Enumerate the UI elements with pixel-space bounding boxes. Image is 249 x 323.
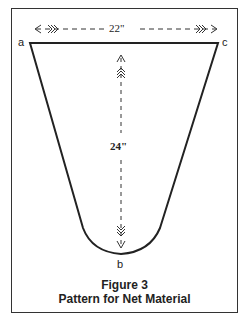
- figure-number: Figure 3: [11, 278, 238, 292]
- point-b-label: b: [117, 258, 123, 270]
- point-a-label: a: [18, 36, 24, 48]
- net-pattern-diagram: [0, 0, 249, 323]
- figure-caption: Pattern for Net Material: [11, 292, 238, 306]
- height-dimension-label: 24": [108, 140, 129, 152]
- point-c-label: c: [222, 36, 228, 48]
- width-dimension-label: 22": [107, 22, 127, 34]
